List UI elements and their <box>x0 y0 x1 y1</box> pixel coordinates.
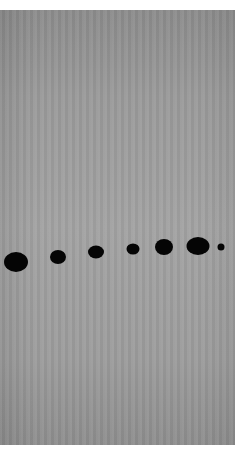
dot-4 <box>127 244 140 255</box>
dot-5 <box>155 239 173 255</box>
dot-3 <box>88 246 104 259</box>
dot-7 <box>218 244 225 251</box>
gray-panel <box>0 10 235 445</box>
dot-2 <box>50 250 66 264</box>
dot-6 <box>187 237 210 255</box>
dot-1 <box>4 252 28 272</box>
image-canvas <box>0 0 245 452</box>
